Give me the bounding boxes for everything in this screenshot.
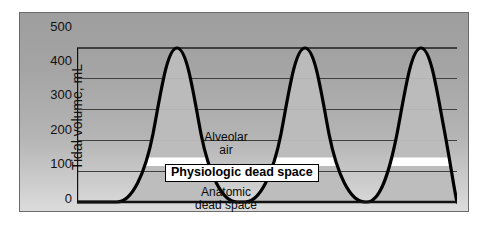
annotation-alveolar-air: Alveolar air <box>181 131 271 157</box>
anatomic-dead-space-line1: Anatomic <box>201 185 251 199</box>
alveolar-air-line2: air <box>219 143 232 157</box>
annotation-physiologic-dead-space: Physiologic dead space <box>165 164 319 182</box>
physiologic-dead-space-text: Physiologic dead space <box>171 165 313 179</box>
y-tick-500: 500 <box>50 20 72 33</box>
alveolar-air-line1: Alveolar <box>204 130 247 144</box>
annotation-anatomic-dead-space: Anatomic dead space <box>181 186 271 212</box>
plot-area: Alveolar air Physiologic dead space Anat… <box>77 24 457 202</box>
y-tick-200: 200 <box>50 123 72 136</box>
chart-panel: Tidal volume, mL 500 400 300 200 100 0 <box>19 12 469 212</box>
figure-root: Tidal volume, mL 500 400 300 200 100 0 <box>0 0 488 228</box>
y-tick-100: 100 <box>50 157 72 170</box>
anatomic-dead-space-line2: dead space <box>195 198 257 212</box>
y-tick-400: 400 <box>50 54 72 67</box>
y-tick-300: 300 <box>50 88 72 101</box>
y-tick-0: 0 <box>65 192 72 205</box>
y-axis-tick-labels: 500 400 300 200 100 0 <box>28 13 72 213</box>
